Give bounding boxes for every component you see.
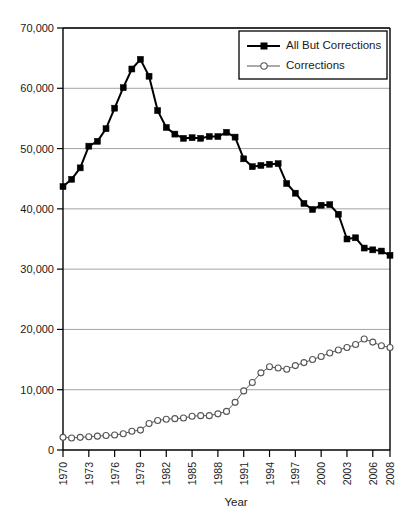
y-tick-label: 10,000 (20, 384, 54, 396)
data-point-marker (361, 245, 367, 251)
data-point-marker (112, 432, 118, 438)
data-point-marker (215, 134, 221, 140)
chart-legend: All But CorrectionsCorrections (239, 31, 387, 79)
data-point-marker (318, 202, 324, 208)
data-point-marker (232, 134, 238, 140)
data-point-marker (284, 366, 290, 372)
y-tick-label: 20,000 (20, 323, 54, 335)
data-point-marker (284, 181, 290, 187)
x-axis-title: Year (224, 496, 247, 508)
data-point-marker (155, 108, 161, 114)
data-point-marker (155, 417, 161, 423)
data-point-marker (77, 434, 83, 440)
data-point-marker (163, 416, 169, 422)
data-point-marker (112, 105, 118, 111)
data-point-marker (198, 413, 204, 419)
legend-circle-marker (261, 63, 267, 69)
data-point-marker (224, 408, 230, 414)
data-point-marker (146, 420, 152, 426)
x-tick-label: 2003 (341, 462, 353, 486)
gridlines-group (63, 28, 390, 390)
x-tick-label: 1970 (57, 462, 69, 486)
data-point-marker (77, 165, 83, 171)
data-point-marker (86, 143, 92, 149)
data-point-marker (258, 162, 264, 168)
y-axis-ticks-group: 010,00020,00030,00040,00050,00060,00070,… (20, 22, 63, 456)
x-tick-label: 1988 (212, 462, 224, 486)
y-tick-label: 50,000 (20, 143, 54, 155)
x-tick-label: 2008 (384, 462, 396, 486)
data-point-marker (267, 161, 273, 167)
y-tick-label: 0 (48, 444, 54, 456)
data-point-marker (189, 135, 195, 141)
data-point-marker (60, 434, 66, 440)
data-point-marker (172, 131, 178, 137)
x-tick-label: 1973 (83, 462, 95, 486)
data-series-group (60, 56, 393, 441)
data-point-marker (335, 211, 341, 217)
data-point-marker (301, 200, 307, 206)
data-point-marker (232, 399, 238, 405)
data-point-marker (198, 135, 204, 141)
data-point-marker (206, 134, 212, 140)
data-point-marker (361, 336, 367, 342)
x-tick-label: 2006 (367, 462, 379, 486)
data-point-marker (103, 126, 109, 132)
data-point-marker (120, 85, 126, 91)
data-point-marker (206, 413, 212, 419)
data-point-marker (69, 435, 75, 441)
data-point-marker (353, 342, 359, 348)
data-point-marker (301, 360, 307, 366)
data-point-marker (327, 202, 333, 208)
data-point-marker (137, 427, 143, 433)
x-tick-label: 1982 (160, 462, 172, 486)
data-point-marker (94, 138, 100, 144)
y-tick-label: 40,000 (20, 203, 54, 215)
data-point-marker (120, 431, 126, 437)
chart-container: 010,00020,00030,00040,00050,00060,00070,… (0, 0, 410, 521)
data-point-marker (129, 66, 135, 72)
x-tick-label: 1976 (109, 462, 121, 486)
data-point-marker (344, 236, 350, 242)
data-point-marker (275, 161, 281, 167)
data-point-marker (215, 411, 221, 417)
x-axis-ticks-group: 1970197319761979198219851988199119941997… (57, 450, 396, 485)
data-point-marker (224, 129, 230, 135)
x-tick-label: 1997 (289, 462, 301, 486)
data-point-marker (258, 370, 264, 376)
data-point-marker (137, 56, 143, 62)
data-point-marker (241, 156, 247, 162)
data-point-marker (318, 354, 324, 360)
data-point-marker (180, 135, 186, 141)
data-point-marker (387, 252, 393, 258)
data-point-marker (353, 235, 359, 241)
data-point-marker (129, 428, 135, 434)
y-tick-label: 30,000 (20, 263, 54, 275)
data-point-marker (69, 176, 75, 182)
x-tick-label: 1979 (134, 462, 146, 486)
data-point-marker (267, 364, 273, 370)
y-tick-label: 70,000 (20, 22, 54, 34)
y-tick-label: 60,000 (20, 82, 54, 94)
data-point-marker (189, 413, 195, 419)
series-line (63, 59, 390, 255)
data-point-marker (378, 248, 384, 254)
data-point-marker (172, 416, 178, 422)
x-tick-label: 2000 (315, 462, 327, 486)
axis-lines-group (63, 28, 390, 450)
data-point-marker (249, 379, 255, 385)
legend-square-marker (261, 43, 268, 50)
data-point-marker (103, 433, 109, 439)
legend-entry-label: Corrections (286, 59, 345, 71)
data-point-marker (344, 345, 350, 351)
data-point-marker (163, 124, 169, 130)
data-point-marker (292, 363, 298, 369)
x-tick-label: 1991 (238, 462, 250, 486)
x-tick-label: 1994 (264, 462, 276, 486)
data-point-marker (241, 388, 247, 394)
data-point-marker (275, 365, 281, 371)
line-chart: 010,00020,00030,00040,00050,00060,00070,… (0, 0, 410, 521)
data-point-marker (378, 343, 384, 349)
data-point-marker (387, 345, 393, 351)
data-point-marker (310, 206, 316, 212)
